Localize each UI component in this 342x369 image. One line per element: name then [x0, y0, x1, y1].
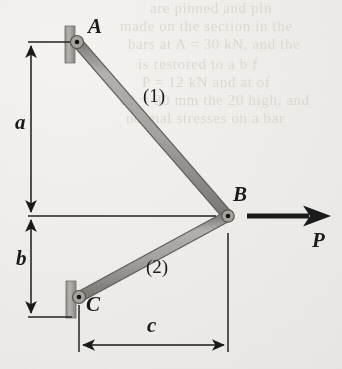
member-1-bar [77, 42, 228, 216]
dimension-label-a: a [15, 110, 26, 135]
support-c [66, 281, 86, 318]
joint-label-a: A [88, 14, 102, 39]
dimension-label-c: c [147, 313, 156, 338]
member-label-1: (1) [143, 85, 165, 107]
diagram-svg [0, 0, 342, 369]
dimension-label-b: b [16, 246, 27, 271]
support-a [65, 26, 84, 63]
joint-label-c: C [86, 292, 100, 317]
member-label-2: (2) [146, 256, 168, 278]
pin-b [222, 210, 234, 222]
load-label-p: P [312, 228, 325, 253]
load-arrow-p [247, 206, 331, 227]
figure-canvas: are pinned and pin made on the section i… [0, 0, 342, 369]
joint-label-b: B [233, 182, 247, 207]
